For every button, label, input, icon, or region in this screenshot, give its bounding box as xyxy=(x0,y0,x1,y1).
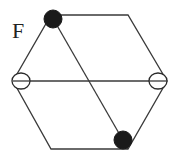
figure-label: F xyxy=(12,18,24,43)
bottom-right-filled-node xyxy=(114,131,132,149)
slanted-diagonal xyxy=(51,15,128,149)
top-left-filled-node xyxy=(44,10,62,28)
hexagon-diagram: F xyxy=(0,0,178,156)
